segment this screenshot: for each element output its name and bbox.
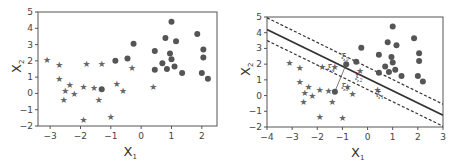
y-tick-label: 2 [27, 56, 33, 66]
x-axis-subscript: 1 [360, 154, 364, 162]
x-tick-label: −3 [286, 132, 299, 142]
circle-point [99, 86, 105, 92]
star-point: ★ [296, 77, 304, 87]
star-point: ★ [318, 62, 326, 72]
figure: −3−2−1012−2−1012345X1X2★★★★★★★★★★★★★★★★★… [0, 0, 462, 165]
circle-point [386, 69, 392, 75]
star-point: ★ [149, 82, 157, 92]
star-point: ★ [296, 63, 304, 73]
x-tick-label: 0 [138, 131, 144, 141]
star-point: ★ [61, 86, 69, 96]
star-point: ★ [348, 89, 356, 99]
star-point: ★ [83, 59, 91, 69]
circle-point [385, 39, 391, 45]
y-axis-title: X [9, 64, 24, 73]
y-tick-label: 5 [256, 12, 262, 22]
y-tick-label: 2 [256, 59, 262, 69]
x-axis-subscript: 1 [133, 153, 137, 161]
y-tick-label: 0 [27, 88, 33, 98]
star-point: ★ [119, 86, 127, 96]
circle-point [152, 48, 158, 54]
plot-area: ★★★★★★★★★★★★★★★★★★ [43, 19, 211, 125]
circle-point [382, 64, 388, 70]
star-point: ★ [43, 55, 51, 65]
y-axis-title-group: X2 [238, 63, 255, 76]
circle-point [376, 70, 382, 76]
y-axis-title-group: X2 [9, 60, 26, 73]
x-tick-label: 2 [199, 131, 205, 141]
y-tick-label: 1 [27, 72, 33, 82]
circle-point [390, 60, 396, 66]
circle-point [167, 51, 173, 57]
star-point: ★ [60, 95, 68, 105]
x-tick-label: 0 [365, 132, 371, 142]
x-axis-title: X [124, 144, 133, 159]
circle-point [358, 45, 364, 51]
right-svm-chart: −4−3−2−10123−2−1012345X1X2★★★★★★★★★★★★★★… [238, 12, 446, 162]
plot-area: ★★★★★★★★★★★★★★★★★★ξ1ξ2ξ3ξ4ξ5 [267, 18, 443, 126]
star-point: ★ [90, 83, 98, 93]
circle-point [411, 35, 417, 41]
y-tick-label: −1 [249, 106, 262, 116]
star-point: ★ [128, 63, 136, 73]
circle-point [416, 50, 422, 56]
star-point: ★ [299, 97, 307, 107]
x-tick-label: 2 [415, 132, 421, 142]
y-tick-label: 3 [27, 40, 33, 50]
circle-point [173, 38, 179, 44]
circle-point [199, 70, 205, 76]
circle-point [332, 89, 338, 95]
star-point: ★ [70, 89, 78, 99]
circle-point [179, 70, 185, 76]
star-point: ★ [316, 85, 324, 95]
star-point: ★ [55, 74, 63, 84]
circle-point [194, 31, 200, 37]
y-tick-label: 1 [256, 75, 262, 85]
x-tick-label: −3 [43, 131, 56, 141]
y-axis-subscript: 2 [18, 60, 26, 64]
x-tick-label: −4 [260, 132, 274, 142]
circle-point [416, 58, 422, 64]
circle-point [392, 67, 398, 73]
left-scatter-chart: −3−2−1012−2−1012345X1X2★★★★★★★★★★★★★★★★★… [9, 7, 217, 161]
y-tick-label: 0 [256, 91, 262, 101]
circle-point [159, 60, 165, 66]
x-tick-label: −2 [311, 132, 324, 142]
x-tick-label: 1 [169, 131, 175, 141]
y-tick-label: 5 [27, 7, 33, 17]
xi-label: ξ1 [376, 90, 384, 100]
circle-point [131, 41, 137, 47]
circle-point [162, 35, 168, 41]
y-tick-label: 4 [256, 28, 262, 38]
circle-point [415, 73, 421, 79]
x-tick-label: 3 [440, 132, 446, 142]
star-point: ★ [286, 58, 294, 68]
circle-point [390, 23, 396, 29]
x-tick-label: −1 [104, 131, 117, 141]
circle-point [420, 78, 426, 84]
circle-point [393, 42, 399, 48]
circle-point [168, 56, 174, 62]
x-axis-title: X [351, 145, 360, 160]
star-point: ★ [316, 112, 324, 122]
y-tick-label: 3 [256, 43, 262, 53]
circle-point [399, 73, 405, 79]
circle-point [200, 46, 206, 52]
x-tick-label: −1 [336, 132, 349, 142]
y-tick-label: −1 [20, 105, 33, 115]
circle-point [168, 19, 174, 25]
circle-point [152, 67, 158, 73]
star-point: ★ [338, 113, 346, 123]
circle-point [353, 59, 359, 65]
xi-label: ξ5 [341, 52, 349, 62]
star-point: ★ [325, 86, 333, 96]
x-tick-label: 1 [390, 132, 396, 142]
star-point: ★ [328, 97, 336, 107]
y-axis-subscript: 2 [247, 63, 255, 67]
y-tick-label: 4 [27, 23, 33, 33]
star-point: ★ [79, 82, 87, 92]
circle-point [200, 55, 206, 61]
y-tick-label: −2 [249, 122, 262, 132]
star-point: ★ [107, 112, 115, 122]
circle-point [376, 52, 382, 58]
